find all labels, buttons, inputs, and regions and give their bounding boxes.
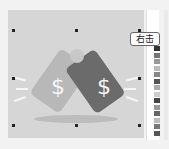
color-swatch[interactable] bbox=[154, 72, 160, 77]
color-swatch[interactable] bbox=[154, 111, 160, 116]
color-swatch[interactable] bbox=[154, 46, 160, 51]
color-swatch[interactable] bbox=[154, 85, 160, 90]
resize-handle-tl[interactable] bbox=[12, 29, 15, 32]
resize-handle-bc[interactable] bbox=[75, 124, 78, 127]
color-swatch[interactable] bbox=[154, 118, 160, 123]
svg-text:$: $ bbox=[51, 74, 65, 99]
resize-handle-tc[interactable] bbox=[75, 29, 78, 32]
color-swatch[interactable] bbox=[154, 59, 160, 64]
color-swatch[interactable] bbox=[154, 79, 160, 84]
color-swatch[interactable] bbox=[154, 53, 160, 58]
color-swatch[interactable] bbox=[154, 124, 160, 129]
svg-text:$: $ bbox=[97, 74, 111, 99]
resize-handle-ml[interactable] bbox=[12, 77, 15, 80]
color-swatch[interactable] bbox=[154, 66, 160, 71]
scrollbar[interactable] bbox=[164, 10, 168, 140]
right-click-tooltip: 右击 bbox=[130, 32, 160, 46]
color-swatch[interactable] bbox=[154, 131, 160, 136]
color-swatch[interactable] bbox=[154, 105, 160, 110]
resize-handle-bl[interactable] bbox=[12, 124, 15, 127]
resize-handle-mr[interactable] bbox=[138, 77, 141, 80]
color-swatch[interactable] bbox=[154, 98, 160, 103]
color-swatch[interactable] bbox=[154, 92, 160, 97]
resize-handle-br[interactable] bbox=[138, 124, 141, 127]
